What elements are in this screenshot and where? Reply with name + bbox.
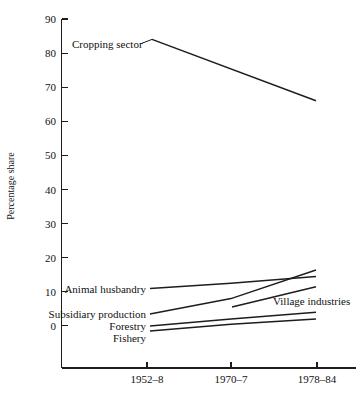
chart-container: 90 80 70 60 50 40 30 20 10 0 1952–8 1970… <box>0 0 362 396</box>
series-label-subsidiary-production: Subsidiary production <box>49 308 147 320</box>
y-tick-label-80: 80 <box>45 47 57 59</box>
x-tick-label-1952-8: 1952–8 <box>131 373 165 385</box>
y-tick-label-40: 40 <box>45 184 57 196</box>
series-label-animal-husbandry: Animal husbandry <box>64 283 146 295</box>
y-tick-labels: 90 80 70 60 50 40 30 20 10 0 <box>45 13 57 332</box>
x-tick-marks <box>147 362 317 368</box>
y-tick-label-70: 70 <box>45 81 57 93</box>
y-tick-label-60: 60 <box>45 115 57 127</box>
series-line-fishery <box>150 319 316 331</box>
x-tick-labels: 1952–8 1970–7 1978–84 <box>131 373 337 385</box>
y-tick-label-50: 50 <box>45 149 57 161</box>
series-line-cropping-sector <box>152 39 316 100</box>
series-label-cropping-sector: Cropping sector <box>72 38 143 50</box>
y-tick-label-30: 30 <box>45 218 57 230</box>
y-tick-label-90: 90 <box>45 13 57 25</box>
y-axis-title: Percentage share <box>5 152 16 220</box>
series-label-village-industries: Village industries <box>273 295 350 307</box>
y-tick-label-0: 0 <box>51 320 57 332</box>
series-label-forestry: Forestry <box>109 320 146 332</box>
line-chart: 90 80 70 60 50 40 30 20 10 0 1952–8 1970… <box>0 0 362 396</box>
x-tick-label-1970-7: 1970–7 <box>215 373 249 385</box>
series-labels-group: Cropping sector Animal husbandry Subsidi… <box>49 38 351 344</box>
y-tick-label-20: 20 <box>45 252 57 264</box>
series-label-fishery: Fishery <box>113 332 147 344</box>
y-tick-marks <box>62 19 69 326</box>
x-tick-label-1978-84: 1978–84 <box>298 373 337 385</box>
series-lines-group <box>150 39 316 331</box>
y-tick-label-10: 10 <box>45 286 57 298</box>
